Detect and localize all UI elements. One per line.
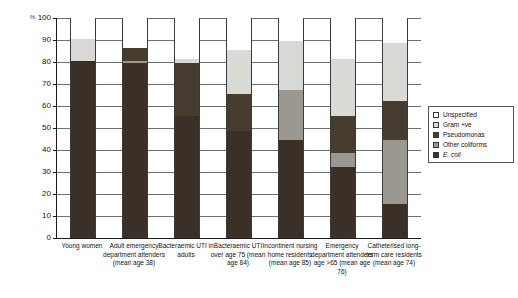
bar-segment [227, 131, 251, 237]
bar [174, 18, 200, 238]
bar [330, 18, 356, 238]
bar-segment [383, 101, 407, 141]
bar-segment [331, 153, 355, 166]
y-axis-tick-label: 50 [42, 124, 51, 132]
legend-swatch [433, 142, 439, 148]
bar-segment [123, 48, 147, 61]
bar-segment [279, 140, 303, 237]
bar-segment [331, 116, 355, 153]
legend-label: Pseudomonas [443, 131, 485, 138]
bar-segment [331, 17, 355, 59]
y-axis-tick-label: 30 [42, 168, 51, 176]
legend-label: Other coliforms [443, 141, 487, 148]
bar-segment [71, 17, 95, 39]
bar-segment [227, 17, 251, 50]
bar-segment [71, 61, 95, 237]
bar-segment [175, 116, 199, 237]
chart-legend: UnspecifiedGram +vePseudomonasOther coli… [428, 106, 514, 163]
bar-segment [279, 41, 303, 89]
bar [122, 18, 148, 238]
legend-swatch [433, 122, 439, 128]
legend-swatch [433, 132, 439, 138]
legend-item: Pseudomonas [433, 131, 508, 138]
legend-item: Unspecified [433, 111, 508, 118]
y-axis-tick-label: 60 [42, 102, 51, 110]
bar-segment [123, 17, 147, 48]
y-axis-tick-label: 0 [47, 234, 51, 242]
legend-swatch [433, 112, 439, 118]
y-axis-tick-label: 70 [42, 80, 51, 88]
bar-segment [279, 90, 303, 141]
legend-swatch [433, 152, 439, 158]
y-axis-tick-label: 90 [42, 36, 51, 44]
legend-label: E. coli [443, 151, 461, 158]
bar [382, 18, 408, 238]
y-axis-tick-label: 100 [38, 14, 51, 22]
bar-segment [383, 43, 407, 100]
bar-segment [227, 50, 251, 94]
stacked-bar-chart: % 0102030405060708090100 Young womenAdul… [0, 0, 518, 298]
y-axis-unit-label: % [30, 14, 35, 20]
bar-segment [331, 167, 355, 237]
bar-group [57, 18, 421, 238]
bar-segment [383, 140, 407, 204]
y-axis-tick-label: 10 [42, 212, 51, 220]
bar-segment [279, 17, 303, 41]
y-axis-tick [53, 238, 57, 239]
plot-area: 0102030405060708090100 [56, 18, 421, 239]
bar-segment [175, 59, 199, 63]
legend-item: Other coliforms [433, 141, 508, 148]
legend-label: Gram +ve [443, 121, 472, 128]
x-axis-label: Catheterised long-term care residents (m… [363, 242, 425, 268]
legend-item: Gram +ve [433, 121, 508, 128]
bar-segment [123, 61, 147, 63]
bar-segment [383, 204, 407, 237]
y-axis-tick-label: 20 [42, 190, 51, 198]
bar-segment [383, 17, 407, 43]
bar-segment [71, 39, 95, 61]
bar-segment [175, 63, 199, 116]
bar-segment [123, 63, 147, 237]
bar [278, 18, 304, 238]
bar [226, 18, 252, 238]
legend-label: Unspecified [443, 111, 477, 118]
bar-segment [331, 59, 355, 116]
y-axis-tick-label: 40 [42, 146, 51, 154]
bar [70, 18, 96, 238]
bar-segment [227, 94, 251, 131]
x-axis-labels: Young womenAdult emergency department at… [56, 242, 420, 298]
bar-segment [175, 17, 199, 59]
y-axis-tick-label: 80 [42, 58, 51, 66]
legend-item: E. coli [433, 151, 508, 158]
